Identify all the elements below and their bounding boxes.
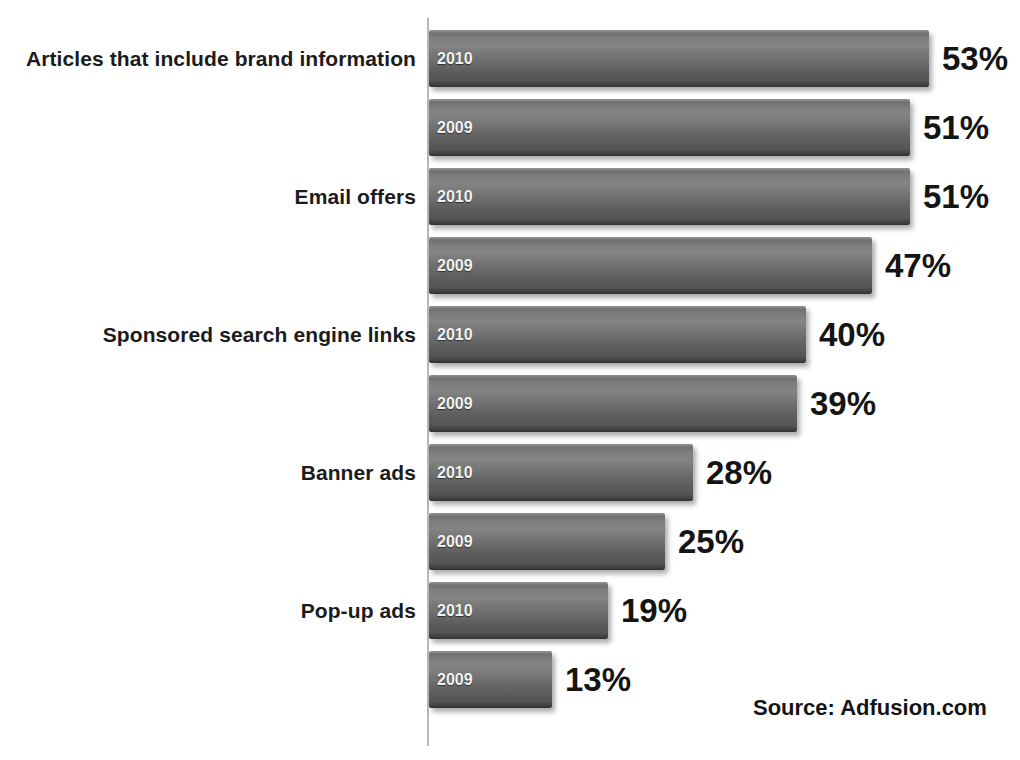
bar-value-label: 19%	[621, 594, 687, 627]
bar-2010-28[interactable]: 2010	[429, 444, 693, 501]
bar-chart: Articles that include brand information …	[0, 0, 1020, 760]
bar-year-label: 2009	[437, 120, 473, 136]
bar-2009-25[interactable]: 2009	[429, 513, 665, 570]
bar-2010-40[interactable]: 2010	[429, 306, 806, 363]
category-label-sponsored-search: Sponsored search engine links	[103, 324, 416, 345]
bar-year-label: 2010	[437, 603, 473, 619]
bar-year-label: 2010	[437, 465, 473, 481]
bar-value-label: 13%	[565, 663, 631, 696]
bar-value-label: 39%	[810, 387, 876, 420]
category-label-banner-ads: Banner ads	[301, 462, 416, 483]
bar-value-label: 47%	[885, 249, 951, 282]
bar-2009-13[interactable]: 2009	[429, 651, 552, 708]
bar-2010-53[interactable]: 2010	[429, 30, 929, 87]
bar-year-label: 2010	[437, 189, 473, 205]
bar-2010-51[interactable]: 2010	[429, 168, 910, 225]
bar-year-label: 2010	[437, 51, 473, 67]
bar-value-label: 53%	[942, 42, 1008, 75]
bar-year-label: 2009	[437, 258, 473, 274]
bar-year-label: 2009	[437, 672, 473, 688]
category-label-articles: Articles that include brand information	[26, 48, 416, 69]
bar-2009-39[interactable]: 2009	[429, 375, 797, 432]
source-annotation: Source: Adfusion.com	[753, 697, 987, 719]
bar-2010-19[interactable]: 2010	[429, 582, 608, 639]
bar-2009-51[interactable]: 2009	[429, 99, 910, 156]
bar-value-label: 51%	[923, 180, 989, 213]
bar-year-label: 2010	[437, 327, 473, 343]
bar-year-label: 2009	[437, 534, 473, 550]
bar-value-label: 40%	[819, 318, 885, 351]
bar-value-label: 25%	[678, 525, 744, 558]
bar-value-label: 51%	[923, 111, 989, 144]
bar-2009-47[interactable]: 2009	[429, 237, 872, 294]
bar-year-label: 2009	[437, 396, 473, 412]
category-label-popup-ads: Pop-up ads	[301, 600, 416, 621]
category-label-email-offers: Email offers	[295, 186, 416, 207]
bar-value-label: 28%	[706, 456, 772, 489]
